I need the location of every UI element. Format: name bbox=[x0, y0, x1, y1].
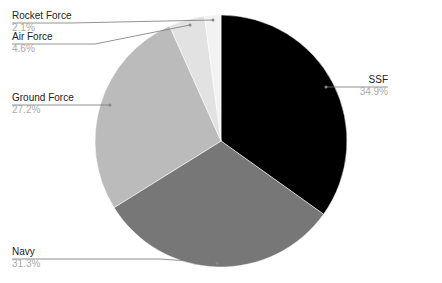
label-rocket-force-pct: 2.1% bbox=[12, 22, 35, 33]
label-ssf-name: SSF bbox=[369, 74, 388, 85]
label-rocket-force-name: Rocket Force bbox=[12, 10, 72, 21]
label-ground-force: Ground Force 27.2% bbox=[12, 92, 112, 115]
label-ssf-pct: 34.9% bbox=[360, 86, 388, 97]
label-ground-force-pct: 27.2% bbox=[12, 104, 40, 115]
pie-chart: SSF 34.9% Navy 31.3% Ground Force 27.2% … bbox=[0, 0, 442, 283]
pie-slices bbox=[95, 15, 347, 267]
label-air-force-pct: 4.6% bbox=[12, 43, 35, 54]
label-navy-name: Navy bbox=[12, 246, 35, 257]
label-navy-pct: 31.3% bbox=[12, 258, 40, 269]
label-ground-force-name: Ground Force bbox=[12, 92, 74, 103]
